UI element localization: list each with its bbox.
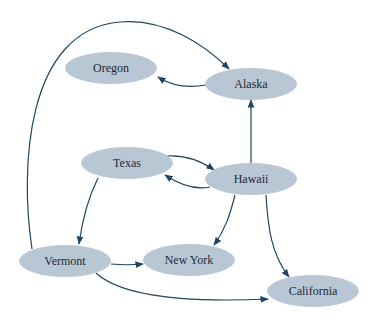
edge-texas-hawaii	[167, 156, 214, 170]
edge-alaska-oregon	[158, 77, 206, 86]
node-new-york[interactable]: New York	[143, 244, 235, 276]
edge-hawaii-texas	[165, 175, 210, 188]
node-label: Oregon	[93, 61, 129, 75]
node-hawaii[interactable]: Hawaii	[205, 163, 297, 195]
node-label: California	[289, 284, 338, 298]
node-alaska[interactable]: Alaska	[205, 68, 297, 100]
node-label: Vermont	[44, 254, 86, 268]
edge-vermont-newyork	[111, 264, 143, 265]
node-vermont[interactable]: Vermont	[19, 245, 111, 277]
node-oregon[interactable]: Oregon	[65, 52, 157, 84]
node-label: Texas	[113, 156, 141, 170]
edge-hawaii-california	[266, 195, 289, 277]
node-texas[interactable]: Texas	[81, 147, 173, 179]
graph-canvas: Oregon Alaska Texas Hawaii Vermont New Y…	[0, 0, 373, 321]
node-label: Hawaii	[234, 172, 269, 186]
edge-vermont-california	[96, 273, 268, 300]
node-label: New York	[165, 253, 214, 267]
node-california[interactable]: California	[267, 275, 359, 307]
edge-texas-vermont	[79, 178, 98, 244]
node-label: Alaska	[234, 77, 268, 91]
edge-hawaii-newyork	[214, 195, 235, 245]
